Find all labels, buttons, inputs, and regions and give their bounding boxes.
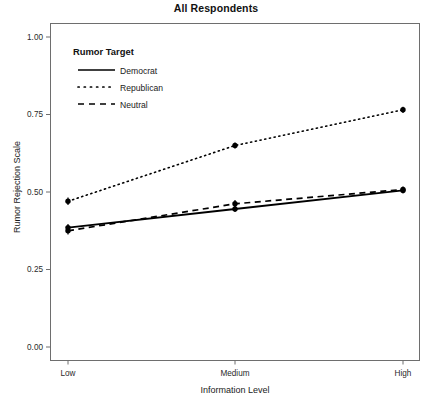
chart-figure: All Respondents Rumor Rejection Scale In… — [0, 0, 432, 408]
series-republican — [65, 107, 405, 205]
chart-canvas — [0, 0, 432, 408]
x-axis-ticks — [68, 361, 403, 365]
y-axis-ticks — [46, 37, 50, 347]
